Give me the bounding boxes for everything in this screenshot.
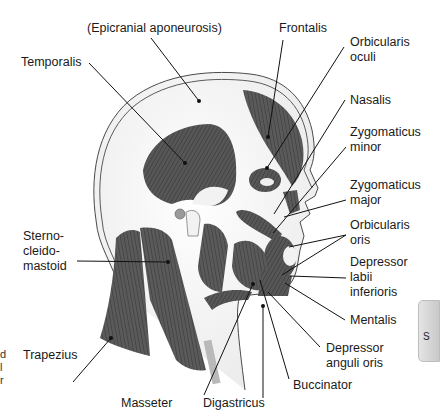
- label-masseter: Masseter: [121, 396, 172, 411]
- label-digastricus: Digastricus: [203, 396, 265, 411]
- label-buccinator: Buccinator: [293, 378, 352, 393]
- label-mentalis: Mentalis: [350, 313, 397, 328]
- page-edge-tab: S: [418, 300, 440, 362]
- label-zygomaticus-major: Zygomaticus major: [350, 178, 421, 208]
- label-orbicularis-oris: Orbicularis oris: [350, 218, 410, 248]
- label-temporalis: Temporalis: [21, 55, 81, 70]
- tab-letter: S: [423, 331, 430, 342]
- label-depressor-anguli-oris: Depressor anguli oris: [326, 341, 384, 371]
- label-orbicularis-oculi: Orbicularis oculi: [350, 35, 410, 65]
- label-zygomaticus-minor: Zygomaticus minor: [350, 125, 421, 155]
- label-trapezius: Trapezius: [23, 348, 77, 363]
- label-depressor-labii-inferioris: Depressor labii inferioris: [350, 255, 408, 300]
- label-sternocleidomastoid: Sterno- cleido- mastoid: [23, 229, 67, 274]
- label-nasalis: Nasalis: [350, 93, 391, 108]
- label-frontalis: Frontalis: [279, 21, 327, 36]
- cropped-text-fragment: d l r: [0, 348, 6, 387]
- label-epicranial-aponeurosis: (Epicranial aponeurosis): [87, 21, 222, 36]
